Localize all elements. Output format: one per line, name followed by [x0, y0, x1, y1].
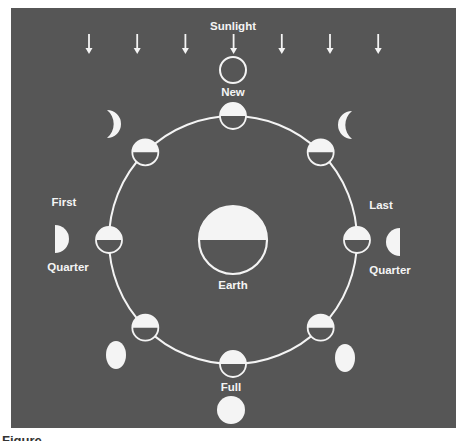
sunlight-label: Sunlight [210, 20, 256, 32]
moon-lit-half [308, 139, 334, 152]
moon-phases-diagram: Sunlight Earth New Full First Quarter La… [0, 0, 465, 441]
new-label: New [221, 86, 245, 98]
sunlight-arrow-icon [375, 34, 382, 54]
orbit-moon-last-quarter [344, 227, 370, 253]
full-label: Full [221, 381, 241, 393]
sunlight-arrow-icon [230, 34, 237, 54]
orbit-moon-waxing-gibbous [132, 315, 158, 341]
moon-lit-half [132, 139, 158, 152]
first-quarter-label-line1: First [52, 196, 77, 208]
sunlight-arrow-icon [278, 34, 285, 54]
orbit-moon-waning-crescent [308, 139, 334, 165]
apparent-waxing-gibbous-moon [106, 341, 126, 369]
earth-lit-half [199, 206, 267, 240]
sunlight-arrow-icon [327, 34, 334, 54]
earth [199, 206, 267, 274]
last-quarter-label-line1: Last [369, 199, 393, 211]
apparent-waxing-crescent-moon [107, 110, 121, 138]
moon-lit-half [96, 227, 122, 240]
last-quarter-label-line2: Quarter [369, 264, 411, 276]
moon-lit-half [220, 351, 246, 364]
orbit-moon-new [220, 103, 246, 129]
apparent-first-quarter-moon [55, 225, 69, 253]
apparent-waning-gibbous-moon [335, 344, 355, 372]
orbit-moon-first-quarter [96, 227, 122, 253]
sunlight-arrow-icon [86, 34, 93, 54]
sunlight-arrow-icon [134, 34, 141, 54]
apparent-full-moon [217, 396, 245, 424]
orbit-moon-waning-gibbous [308, 315, 334, 341]
moon-lit-half [220, 103, 246, 116]
sunlight-arrows [86, 34, 382, 54]
orbit-moon-waxing-crescent [132, 139, 158, 165]
apparent-new-moon [220, 57, 246, 83]
sunlight-arrow-icon [182, 34, 189, 54]
first-quarter-label-line2: Quarter [47, 261, 89, 273]
figure-caption: Figure [2, 434, 42, 441]
orbit-moon-full [220, 351, 246, 377]
apparent-waning-crescent-moon [338, 111, 352, 139]
apparent-last-quarter-moon [386, 228, 400, 256]
earth-label: Earth [218, 279, 247, 291]
moon-lit-half [344, 227, 370, 240]
